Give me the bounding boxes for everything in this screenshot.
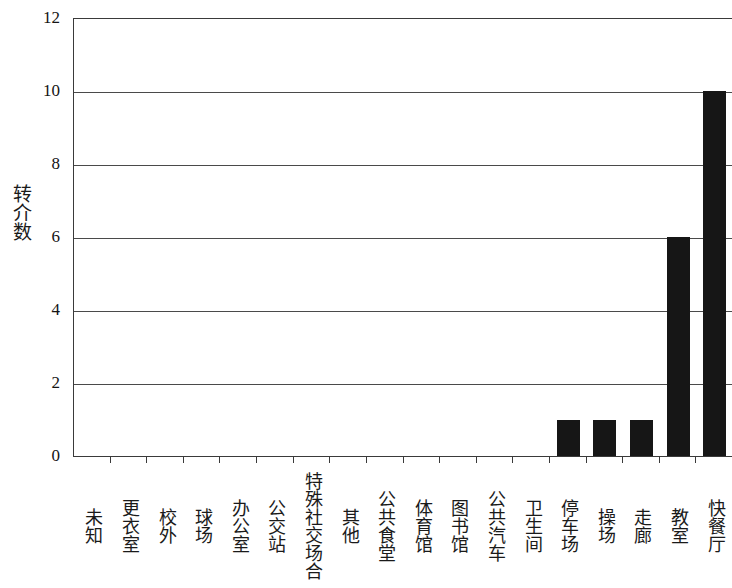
x-category-label: 其他 bbox=[335, 464, 361, 588]
x-category-label: 停车场 bbox=[554, 464, 580, 588]
y-tick-label: 6 bbox=[32, 228, 60, 245]
bar-chart-figure: 转介数 024681012 未知更衣室校外球场办公室公交站特殊社交场合其他公共食… bbox=[0, 0, 732, 588]
x-category-label: 走廊 bbox=[627, 464, 653, 588]
x-tick bbox=[695, 456, 696, 463]
x-tick bbox=[329, 456, 330, 463]
gridline bbox=[74, 238, 732, 239]
x-tick bbox=[219, 456, 220, 463]
x-category-label: 图书馆 bbox=[444, 464, 470, 588]
x-category-label: 特殊社交场合 bbox=[298, 464, 324, 588]
y-tick-label: 12 bbox=[32, 9, 60, 26]
y-tick-label: 0 bbox=[32, 447, 60, 464]
bar bbox=[703, 91, 726, 456]
x-tick bbox=[512, 456, 513, 463]
x-tick bbox=[293, 456, 294, 463]
x-tick bbox=[366, 456, 367, 463]
x-tick bbox=[622, 456, 623, 463]
x-category-label: 教室 bbox=[664, 464, 690, 588]
x-tick bbox=[110, 456, 111, 463]
x-category-label: 操场 bbox=[591, 464, 617, 588]
plot-area bbox=[73, 18, 732, 456]
x-category-label: 卫生间 bbox=[518, 464, 544, 588]
x-tick bbox=[183, 456, 184, 463]
y-tick-label: 2 bbox=[32, 374, 60, 391]
x-category-label: 公共汽车 bbox=[481, 464, 507, 588]
gridline bbox=[74, 311, 732, 312]
x-category-label: 更衣室 bbox=[115, 464, 141, 588]
bar bbox=[667, 237, 690, 456]
bar bbox=[557, 420, 580, 457]
x-category-label: 公交站 bbox=[261, 464, 287, 588]
plot-inner bbox=[74, 19, 732, 456]
y-tick-label: 8 bbox=[32, 155, 60, 172]
y-axis-title: 转介数 bbox=[6, 184, 34, 241]
bar bbox=[630, 420, 653, 457]
x-category-label: 公共食堂 bbox=[371, 464, 397, 588]
x-tick bbox=[586, 456, 587, 463]
y-tick-label: 10 bbox=[32, 82, 60, 99]
x-tick bbox=[146, 456, 147, 463]
x-tick bbox=[476, 456, 477, 463]
gridline bbox=[74, 384, 732, 385]
x-category-label: 球场 bbox=[188, 464, 214, 588]
x-tick bbox=[256, 456, 257, 463]
x-category-label: 未知 bbox=[78, 464, 104, 588]
x-tick bbox=[659, 456, 660, 463]
x-tick bbox=[403, 456, 404, 463]
x-tick bbox=[549, 456, 550, 463]
gridline bbox=[74, 92, 732, 93]
y-tick-label: 4 bbox=[32, 301, 60, 318]
x-tick bbox=[439, 456, 440, 463]
gridline bbox=[74, 165, 732, 166]
x-category-label: 校外 bbox=[152, 464, 178, 588]
x-category-label: 快餐厅 bbox=[701, 464, 727, 588]
bar bbox=[593, 420, 616, 457]
x-category-label: 办公室 bbox=[225, 464, 251, 588]
x-category-label: 体育馆 bbox=[408, 464, 434, 588]
